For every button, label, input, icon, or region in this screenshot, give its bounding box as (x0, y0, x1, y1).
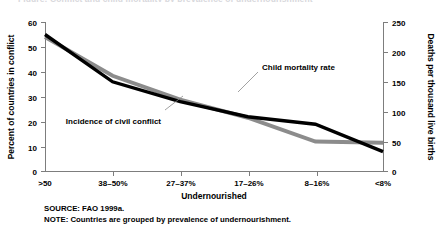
right-tick-label-200: 200 (392, 49, 406, 58)
annotation-incidence-of-civil-conflict: Incidence of civil conflict (66, 117, 161, 126)
x-category-label-3: 17–26% (234, 179, 263, 188)
left-tick-label-50: 50 (28, 44, 37, 53)
annotation-child-mortality-rate: Child mortality rate (262, 63, 335, 72)
right-tick-label-100: 100 (392, 109, 406, 118)
left-tick-label-60: 60 (28, 19, 37, 28)
right-tick-label-0: 0 (392, 168, 397, 177)
series-line-incidence-of-civil-conflict (45, 35, 383, 152)
left-axis-title: Percent of countries in conflict (6, 34, 16, 159)
x-category-label-2: 27–37% (166, 179, 195, 188)
x-axis-title: Undernourished (181, 191, 247, 201)
right-axis-title: Deaths per thousand live births (426, 33, 436, 160)
chart-canvas: 60 50 40 30 20 10 0 Percent of countries… (0, 0, 438, 228)
left-tick-label-20: 20 (28, 119, 37, 128)
figure-container: Figure: Conflict and child mortality by … (0, 0, 438, 228)
right-tick-label-150: 150 (392, 79, 406, 88)
x-category-label-0: >50 (38, 179, 52, 188)
left-tick-label-30: 30 (28, 94, 37, 103)
left-tick-label-0: 0 (33, 168, 38, 177)
x-category-label-1: 38–50% (98, 179, 127, 188)
left-tick-label-40: 40 (28, 69, 37, 78)
right-tick-label-250: 250 (392, 19, 406, 28)
x-category-label-4: 8–16% (305, 179, 330, 188)
series-line-child-mortality-rate (45, 37, 383, 143)
left-tick-label-10: 10 (28, 144, 37, 153)
leader-line-child-mortality-rate (238, 72, 258, 92)
right-tick-label-50: 50 (392, 139, 401, 148)
x-category-label-5: <8% (375, 179, 391, 188)
footer-source: SOURCE: FAO 1999a. (44, 204, 124, 213)
footer-note: NOTE: Countries are grouped by prevalenc… (44, 215, 291, 224)
